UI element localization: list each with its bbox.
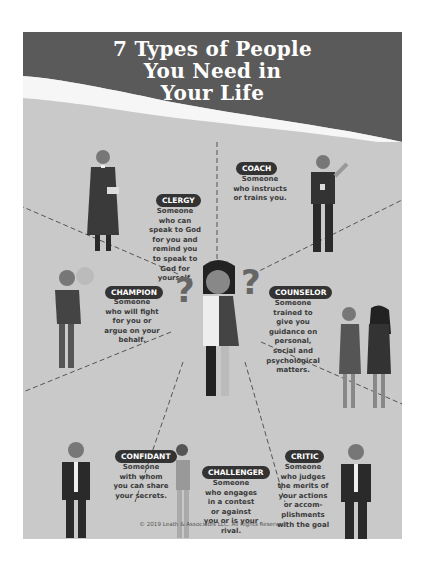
coach-label: COACH <box>236 162 277 175</box>
copyright-footer: © 2019 Leath & Associates LLC. All Right… <box>23 521 402 527</box>
center-figure-icon: ? ? <box>173 254 263 404</box>
clergy-label: CLERGY <box>156 194 201 207</box>
champion-description: Someone who will fight for you or argue … <box>97 298 167 346</box>
coach-description: Someone who instructs or trains you. <box>225 175 295 204</box>
counselor-description: Someone trained to give you guidance on … <box>263 299 323 376</box>
critic-label: CRITIC <box>285 450 324 463</box>
challenger-description: Someone who engages in a contest or agai… <box>199 479 263 537</box>
confidant-description: Someone with whom you can share your sec… <box>107 463 175 501</box>
champion-figure-icon <box>51 264 101 374</box>
counselor-label: COUNSELOR <box>269 286 332 299</box>
clergy-figure-icon <box>83 147 123 255</box>
challenger-label: CHALLENGER <box>202 466 270 479</box>
question-mark-icon: ? <box>241 262 261 302</box>
counselor-figure-icon <box>337 304 397 414</box>
coach-figure-icon <box>305 152 351 256</box>
question-mark-icon: ? <box>175 270 195 310</box>
infographic-poster: 7 Types of People You Need in Your Life … <box>23 32 402 539</box>
